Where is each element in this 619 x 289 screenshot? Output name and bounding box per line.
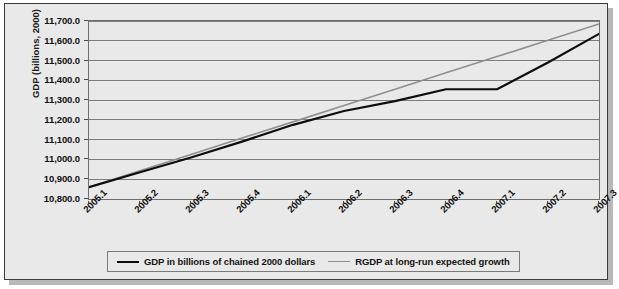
chart-legend: GDP in billions of chained 2000 dollars … (107, 251, 520, 272)
legend-label-actual: GDP in billions of chained 2000 dollars (144, 256, 315, 267)
y-tick-label: 11,000.0 (44, 153, 80, 164)
y-tick-label: 11,400.0 (44, 74, 80, 85)
y-tick-label: 11,200.0 (44, 113, 80, 124)
x-tick-mark (496, 201, 497, 205)
y-tick-label: 11,700.0 (44, 15, 80, 26)
y-tick-label: 11,300.0 (44, 94, 80, 105)
y-tick-mark (84, 178, 88, 179)
x-tick-mark (292, 201, 293, 205)
y-tick-label: 11,100.0 (44, 133, 80, 144)
legend-item-trend: RGDP at long-run expected growth (328, 256, 509, 267)
y-tick-mark (84, 198, 88, 199)
x-tick-mark (241, 201, 242, 205)
y-tick-mark (84, 139, 88, 140)
x-tick-mark (139, 201, 140, 205)
y-tick-mark (84, 60, 88, 61)
x-axis-tick-labels: 2005.12005.22005.32005.42006.12006.22006… (88, 201, 600, 245)
x-tick-mark (88, 201, 89, 205)
y-axis-tick-labels: 11,700.011,600.011,500.011,400.011,300.0… (14, 20, 84, 200)
y-tick-mark (84, 158, 88, 159)
y-tick-mark (84, 99, 88, 100)
y-tick-label: 10,800.0 (44, 193, 80, 204)
y-tick-mark (84, 119, 88, 120)
x-tick-mark (547, 201, 548, 205)
y-tick-label: 11,600.0 (44, 34, 80, 45)
plot-svg (89, 21, 599, 199)
legend-line-icon-actual (117, 261, 139, 263)
y-tick-label: 10,900.0 (44, 173, 80, 184)
x-tick-mark (394, 201, 395, 205)
y-tick-label: 11,500.0 (44, 54, 80, 65)
plot-area (88, 20, 600, 200)
x-tick-mark (598, 201, 599, 205)
x-tick-mark (343, 201, 344, 205)
legend-label-trend: RGDP at long-run expected growth (355, 256, 509, 267)
x-tick-mark (190, 201, 191, 205)
legend-item-actual: GDP in billions of chained 2000 dollars (117, 256, 315, 267)
y-tick-mark (84, 79, 88, 80)
legend-line-icon-trend (328, 261, 350, 262)
y-tick-mark (84, 40, 88, 41)
y-tick-mark (84, 20, 88, 21)
x-tick-mark (445, 201, 446, 205)
